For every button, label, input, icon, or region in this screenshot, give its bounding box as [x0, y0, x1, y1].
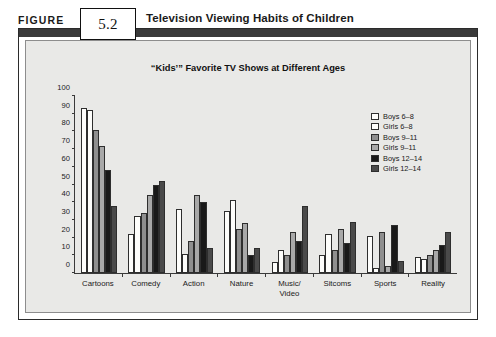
legend-swatch	[371, 144, 379, 151]
legend-swatch	[371, 113, 379, 120]
x-axis-label: Comedy	[122, 279, 170, 309]
legend-item: Boys 6–8	[371, 111, 422, 122]
y-tick-label: 0	[66, 260, 75, 269]
legend-item: Girls 12–14	[371, 164, 422, 175]
figure-word: FIGURE	[18, 14, 64, 26]
legend-item: Boys 12–14	[371, 153, 422, 164]
x-axis-label: Sports	[361, 279, 409, 309]
legend-swatch	[371, 123, 379, 130]
figure-number-box: 5.2	[80, 8, 136, 40]
bar	[350, 222, 356, 273]
figure-title: Television Viewing Habits of Children	[146, 12, 354, 24]
x-axis-labels: CartoonsComedyActionNatureMusic/VideoSit…	[74, 279, 457, 309]
bar	[302, 206, 308, 273]
x-tick-mark	[217, 273, 218, 277]
legend-label: Girls 9–11	[383, 143, 416, 152]
legend-label: Boys 9–11	[383, 133, 417, 142]
legend-label: Girls 6–8	[383, 122, 413, 131]
chart-panel: “Kids’” Favorite TV Shows at Different A…	[25, 40, 471, 313]
chart-legend: Boys 6–8Girls 6–8Boys 9–11Girls 9–11Boys…	[371, 111, 422, 174]
y-tick-label: 30	[62, 206, 75, 215]
y-tick-label: 20	[62, 224, 75, 233]
figure-page: FIGURE 5.2 Television Viewing Habits of …	[0, 0, 496, 337]
bar-group	[218, 96, 266, 273]
y-tick-label: 10	[62, 242, 75, 251]
legend-item: Boys 9–11	[371, 132, 422, 143]
x-tick-mark	[408, 273, 409, 277]
y-tick-label: 60	[62, 153, 75, 162]
x-axis-label: Nature	[218, 279, 266, 309]
legend-label: Boys 6–8	[383, 112, 414, 121]
chart-title: “Kids’” Favorite TV Shows at Different A…	[26, 63, 470, 73]
bar	[111, 206, 117, 273]
legend-swatch	[371, 134, 379, 141]
y-tick-label: 70	[62, 136, 75, 145]
legend-swatch	[371, 155, 379, 162]
bar-group	[314, 96, 362, 273]
y-tick-label: 80	[62, 118, 75, 127]
x-tick-mark	[265, 273, 266, 277]
y-tick-label: 50	[62, 171, 75, 180]
bar-group	[171, 96, 219, 273]
bar-group	[75, 96, 123, 273]
bar	[445, 232, 451, 273]
x-tick-mark	[122, 273, 123, 277]
y-tick-label: 40	[62, 189, 75, 198]
bar	[398, 261, 404, 273]
legend-item: Girls 6–8	[371, 122, 422, 133]
legend-swatch	[371, 165, 379, 172]
legend-label: Girls 12–14	[383, 164, 421, 173]
x-axis-label: Sitcoms	[313, 279, 361, 309]
x-tick-mark	[313, 273, 314, 277]
bar	[254, 248, 260, 273]
legend-item: Girls 9–11	[371, 143, 422, 154]
x-axis-label: Reality	[409, 279, 457, 309]
x-tick-mark	[361, 273, 362, 277]
y-tick-label: 90	[62, 100, 75, 109]
bar-group	[123, 96, 171, 273]
bar	[159, 181, 165, 273]
legend-label: Boys 12–14	[383, 154, 422, 163]
figure-number: 5.2	[98, 16, 117, 33]
x-axis-label: Music/Video	[266, 279, 314, 309]
y-tick-label: 100	[57, 83, 75, 92]
x-axis-label: Action	[170, 279, 218, 309]
bar	[207, 248, 213, 273]
bar-group	[266, 96, 314, 273]
x-axis-label: Cartoons	[74, 279, 122, 309]
x-tick-mark	[170, 273, 171, 277]
